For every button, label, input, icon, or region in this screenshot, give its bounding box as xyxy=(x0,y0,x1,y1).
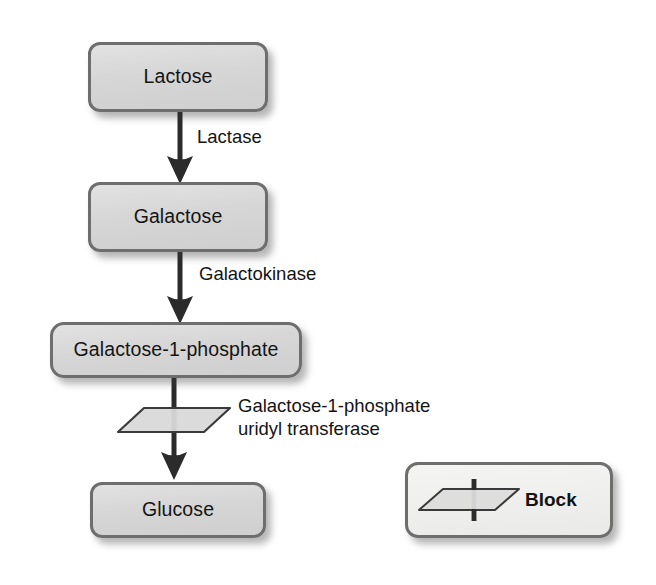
node-galactose-label: Galactose xyxy=(134,207,223,227)
enzyme-label-lactase: Lactase xyxy=(197,126,262,149)
enzyme-galactokinase-text: Galactokinase xyxy=(199,263,316,284)
enzyme-lactase-text: Lactase xyxy=(197,126,262,147)
legend-block-parallelogram-icon xyxy=(417,477,521,523)
arrow-galactose-to-gal1p xyxy=(163,248,197,328)
pathway-diagram: Lactose Lactase Galactose Galactokinase … xyxy=(0,0,656,585)
enzyme-galt-text-line2: uridyl transferase xyxy=(238,418,430,441)
node-lactose[interactable]: Lactose xyxy=(88,42,268,112)
node-galactose[interactable]: Galactose xyxy=(88,182,268,252)
node-galactose-1-phosphate-label: Galactose-1-phosphate xyxy=(74,340,279,360)
node-glucose[interactable]: Glucose xyxy=(90,482,266,538)
legend-block-label: Block xyxy=(525,489,577,511)
node-galactose-1-phosphate[interactable]: Galactose-1-phosphate xyxy=(50,322,302,378)
enzyme-label-galt: Galactose-1-phosphate uridyl transferase xyxy=(238,395,430,440)
enzyme-label-galactokinase: Galactokinase xyxy=(199,263,316,286)
legend-block: Block xyxy=(405,462,613,538)
block-parallelogram-icon xyxy=(116,398,232,442)
node-glucose-label: Glucose xyxy=(142,500,214,520)
arrow-lactose-to-galactose xyxy=(163,108,197,188)
enzyme-galt-text-line1: Galactose-1-phosphate xyxy=(238,395,430,418)
node-lactose-label: Lactose xyxy=(144,67,213,87)
